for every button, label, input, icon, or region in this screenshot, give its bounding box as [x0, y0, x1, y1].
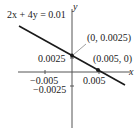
- y-intercept-label: (0, 0.0025): [87, 32, 131, 44]
- x-tick-pos-label: 0.005: [83, 75, 106, 86]
- x-intercept-label: (0.005, 0): [93, 53, 132, 65]
- x-axis-label: x: [128, 66, 134, 77]
- equation-label: 2x + 4y = 0.01: [7, 9, 66, 20]
- y-axis-label: y: [72, 1, 78, 12]
- y-tick-pos-label: 0.0025: [38, 53, 66, 64]
- graph-canvas: 2x + 4y = 0.01 y x (0, 0.0025) (0.005, 0…: [0, 0, 140, 137]
- y-intercept-point: [70, 54, 74, 58]
- y-intercept-leader: [73, 44, 86, 55]
- y-tick-neg-label: −0.0025: [33, 84, 66, 95]
- x-intercept-point: [96, 68, 100, 72]
